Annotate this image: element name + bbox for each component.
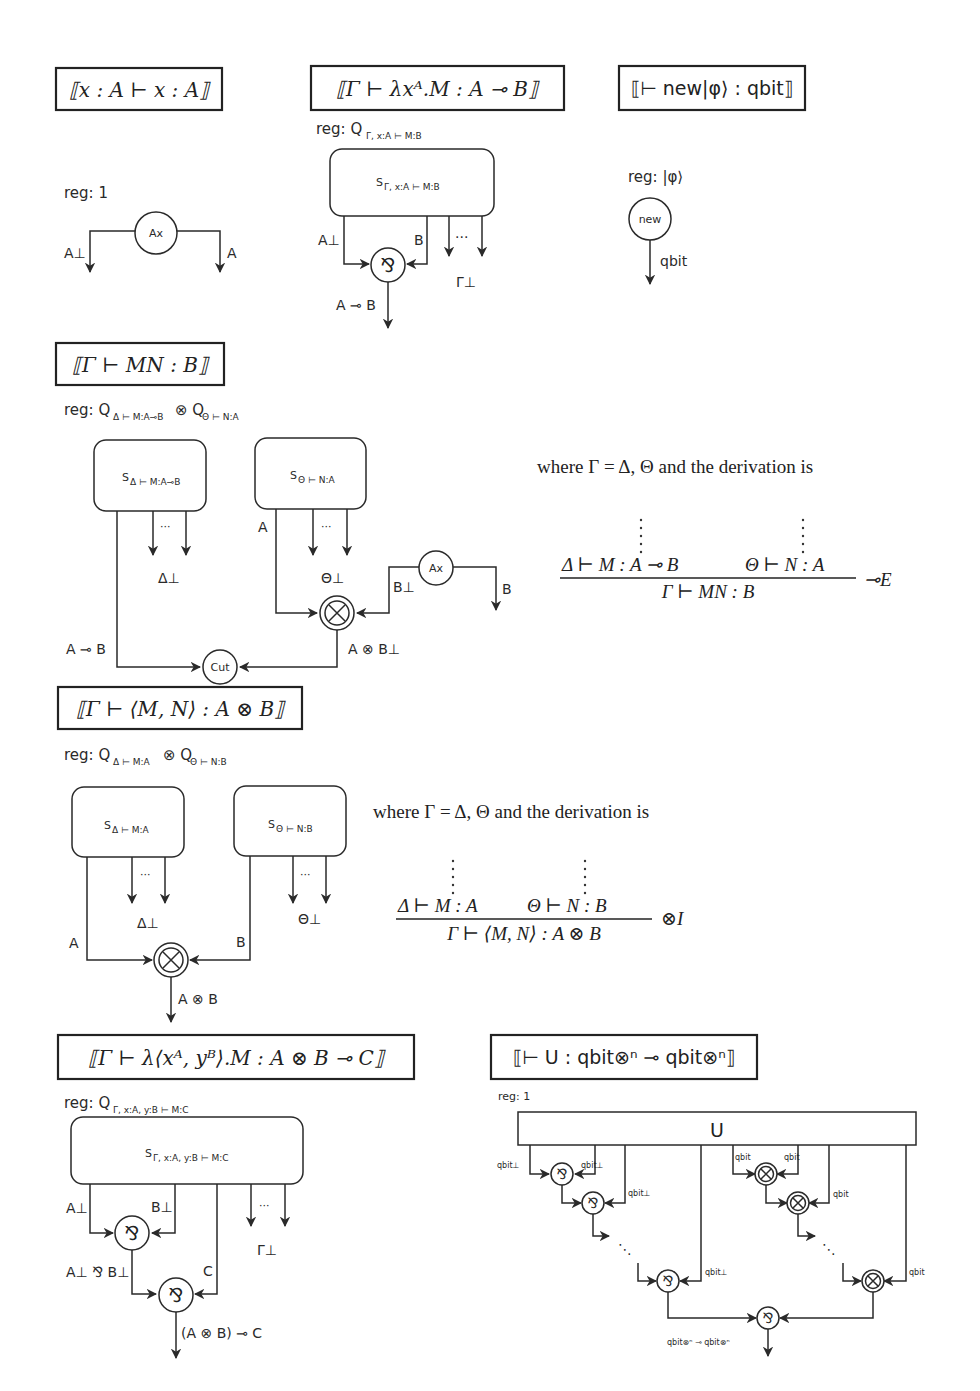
new-panel: ⟦⊢ new|φ⟩ : qbit⟧ reg: |φ⟩ new qbit <box>619 66 805 284</box>
pl-subproof-box <box>71 1117 303 1184</box>
u-l-label-3: qbit⊥ <box>628 1189 651 1198</box>
pair-prose: where Γ = Δ, Θ and the derivation is <box>373 801 649 822</box>
pair-conclusion: Γ ⊢ ⟨M, N⟩ : A ⊗ B <box>446 923 601 944</box>
app-delta-label: Δ⊥ <box>158 570 180 586</box>
pair-delta-label: Δ⊥ <box>137 915 159 931</box>
app-subproof-box-n <box>255 438 366 509</box>
pl-c-label: C <box>203 1263 213 1279</box>
axiom-right-wire <box>177 231 220 272</box>
pair-reg-sub1: Δ ⊢ M:A <box>113 757 151 767</box>
pair-box1-sub: Δ ⊢ M:A <box>112 825 150 835</box>
app-conclusion: Γ ⊢ MN : B <box>661 581 755 602</box>
app-box2-sub: Θ ⊢ N:A <box>298 475 335 485</box>
pair-a-label: A <box>69 935 79 951</box>
pl-a-label: A⊥ <box>66 1200 88 1216</box>
pair-subproof-box-m <box>72 787 184 857</box>
u-r-label-3: qbit <box>833 1190 849 1199</box>
pair-reg-sub2: Θ ⊢ N:B <box>190 757 227 767</box>
lambda-box-main: S <box>376 176 383 189</box>
app-premise-left: Δ ⊢ M : A ⊸ B <box>561 554 679 575</box>
unitary-reg: reg: 1 <box>498 1090 530 1103</box>
pair-theta-label: Θ⊥ <box>298 911 321 927</box>
app-dots-2: ··· <box>321 520 332 533</box>
lambda-title: ⟦Γ ⊢ λxᴬ.M : A ⊸ B⟧ <box>336 77 540 101</box>
u-r-label-4: qbit <box>909 1268 925 1277</box>
axiom-left-wire <box>90 231 135 272</box>
app-premise-right: Θ ⊢ N : A <box>745 554 825 575</box>
par-node-label: ⅋ <box>381 254 396 276</box>
u-l-label-2: qbit⊥ <box>581 1161 604 1170</box>
pair-lambda-panel: ⟦Γ ⊢ λ⟨xᴬ, yᴮ⟩.M : A ⊗ B ⊸ C⟧ reg: Q Γ, … <box>58 1035 414 1358</box>
app-subproof-box-m <box>94 440 206 511</box>
pl-output-label: (A ⊗ B) ⊸ C <box>181 1325 262 1341</box>
pair-box1-main: S <box>104 819 111 832</box>
pair-title: ⟦Γ ⊢ ⟨M, N⟩ : A ⊗ B⟧ <box>76 697 286 721</box>
pl-b-label: B⊥ <box>151 1199 173 1215</box>
lambda-dots: ··· <box>455 229 468 245</box>
app-derivation-dots <box>640 519 804 553</box>
pair-dots-1: ··· <box>140 868 151 881</box>
application-panel: ⟦Γ ⊢ MN : B⟧ reg: Q Δ ⊢ M:A⊸B ⊗ Q Θ ⊢ N:… <box>56 343 892 684</box>
new-node-label: new <box>639 213 662 226</box>
pair-panel: ⟦Γ ⊢ ⟨M, N⟩ : A ⊗ B⟧ reg: Q Δ ⊢ M:A ⊗ Q … <box>58 687 685 1022</box>
u-l-chain-3 <box>638 1263 656 1281</box>
axiom-title: ⟦x : A ⊢ x : A⟧ <box>69 78 211 102</box>
app-box1-sub: Δ ⊢ M:A⊸B <box>130 477 180 487</box>
app-tensor-label: A ⊗ B⊥ <box>348 641 400 657</box>
pair-reg-tensor: ⊗ Q <box>163 746 192 764</box>
pl-par-node-2-label: ⅋ <box>169 1284 184 1306</box>
pair-premise-left: Δ ⊢ M : A <box>397 895 478 916</box>
app-reg-tensor: ⊗ Q <box>175 401 204 419</box>
ax-node-label: Ax <box>149 227 164 240</box>
axiom-left-label: A⊥ <box>64 245 86 261</box>
app-prose: where Γ = Δ, Θ and the derivation is <box>537 456 813 477</box>
app-dots-1: ··· <box>160 520 171 533</box>
pl-gamma-label: Γ⊥ <box>257 1242 277 1258</box>
unitary-title: ⟦⊢ U : qbit⊗ⁿ ⊸ qbit⊗ⁿ⟧ <box>513 1046 735 1068</box>
lambda-reg-prefix: reg: Q <box>316 120 362 138</box>
lambda-output-label: A ⊸ B <box>336 297 376 313</box>
u-output-label: qbit⊗ⁿ ⊸ qbit⊗ⁿ <box>667 1338 730 1347</box>
app-reg-prefix: reg: Q <box>64 401 110 419</box>
u-l-label-4: qbit⊥ <box>705 1268 728 1277</box>
u-l-chain-1 <box>562 1185 581 1203</box>
u-r-chain-2 <box>798 1214 815 1236</box>
u-r-chain-1 <box>766 1185 787 1203</box>
app-reg-sub1: Δ ⊢ M:A⊸B <box>113 412 163 422</box>
new-output-label: qbit <box>660 253 688 269</box>
u-r-wire-3 <box>809 1145 829 1203</box>
u-par-node-3-label: ⅋ <box>663 1273 674 1289</box>
app-lolli-wire <box>117 511 200 667</box>
u-l-wire-1 <box>530 1145 549 1174</box>
app-reg-sub2: Θ ⊢ N:A <box>202 412 239 422</box>
app-b-perp-label: B⊥ <box>393 579 415 595</box>
lambda-box-sub: Γ, x:A ⊢ M:B <box>384 182 440 192</box>
u-r-label-1: qbit <box>735 1153 751 1162</box>
app-theta-label: Θ⊥ <box>321 570 344 586</box>
pair-output-label: A ⊗ B <box>178 991 218 1007</box>
u-par-node-1-label: ⅋ <box>557 1166 568 1182</box>
app-tensor-out-wire <box>240 630 337 667</box>
u-l-chain-2 <box>593 1214 609 1236</box>
pl-a-wire <box>90 1184 113 1233</box>
app-b-wire <box>453 567 496 610</box>
pl-box-main: S <box>145 1147 152 1160</box>
lambda-b-label: B <box>414 232 424 248</box>
pl-reg-sub: Γ, x:A, y:B ⊢ M:C <box>113 1105 189 1115</box>
u-l-ellipsis: ⋱ <box>618 1241 632 1257</box>
pair-rule: ⊗I <box>661 908 685 929</box>
u-r-wire-4 <box>884 1145 906 1281</box>
axiom-panel: ⟦x : A ⊢ x : A⟧ reg: 1 Ax A⊥ A <box>56 68 237 272</box>
u-r-label-2: qbit <box>784 1153 800 1162</box>
pair-box2-main: S <box>268 818 275 831</box>
pair-reg-prefix: reg: Q <box>64 746 110 764</box>
pair-lambda-title: ⟦Γ ⊢ λ⟨xᴬ, yᴮ⟩.M : A ⊗ B ⊸ C⟧ <box>88 1046 386 1070</box>
app-box1-main: S <box>122 471 129 484</box>
pl-par-label: A⊥ ⅋ B⊥ <box>66 1264 129 1280</box>
pair-subproof-box-n <box>234 786 346 856</box>
app-ax-node-label: Ax <box>429 562 444 575</box>
pl-box-sub: Γ, x:A, y:B ⊢ M:C <box>153 1153 229 1163</box>
pair-premise-right: Θ ⊢ N : B <box>527 895 607 916</box>
app-box2-main: S <box>290 469 297 482</box>
pair-dots-2: ··· <box>300 868 311 881</box>
